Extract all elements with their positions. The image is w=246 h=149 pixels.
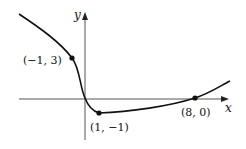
point-label-neg1-3: (−1, 3): [23, 54, 62, 67]
y-axis-arrow-icon: [82, 12, 88, 20]
y-axis-label: y: [73, 8, 81, 22]
point-marker-8-0: [192, 95, 197, 100]
point-marker-neg1-3: [69, 55, 74, 60]
point-marker-1-neg1: [96, 110, 101, 115]
point-label-8-0: (8, 0): [181, 106, 211, 119]
point-label-1-neg1: (1, −1): [90, 121, 129, 134]
function-graph: x y (−1, 3) (1, −1) (8, 0): [0, 0, 246, 149]
y-axis: [82, 12, 88, 140]
x-axis-label: x: [225, 101, 232, 115]
